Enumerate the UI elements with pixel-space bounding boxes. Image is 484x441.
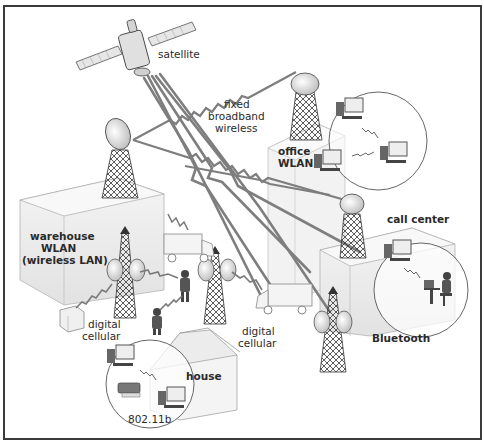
fixed-broadband-label-line2: broadband: [208, 110, 265, 122]
warehouse-label-line3: (wireless LAN): [22, 254, 108, 266]
warehouse-label-line1: warehouse: [30, 230, 95, 242]
person-cellphone-2: [152, 308, 162, 335]
office-wlan-label-line1: office: [278, 145, 310, 157]
bluetooth-label: Bluetooth: [372, 332, 430, 344]
van-cellular: [256, 284, 312, 314]
cellular-box: [60, 306, 84, 332]
call-center-label: call center: [387, 213, 449, 225]
house-label: house: [186, 370, 222, 382]
tower-callcenter-dish: [340, 194, 366, 258]
office-wlan-label-line2: WLAN: [278, 157, 313, 169]
wifi-standard-label: 802.11b: [128, 413, 171, 425]
van-warehouse: [164, 234, 214, 262]
digital-cellular-right-line1: digital: [242, 325, 275, 337]
tower-warehouse-dish: [101, 115, 138, 198]
tower-office-dish: [290, 73, 322, 140]
satellite-label: satellite: [158, 48, 200, 60]
fixed-broadband-label-line3: wireless: [215, 122, 257, 134]
warehouse-label-line2: WLAN: [41, 242, 76, 254]
digital-cellular-left-line2: cellular: [82, 330, 120, 342]
digital-cellular-left-line1: digital: [88, 318, 121, 330]
digital-cellular-right-line2: cellular: [238, 337, 276, 349]
fixed-broadband-label-line1: fixed: [224, 98, 250, 110]
